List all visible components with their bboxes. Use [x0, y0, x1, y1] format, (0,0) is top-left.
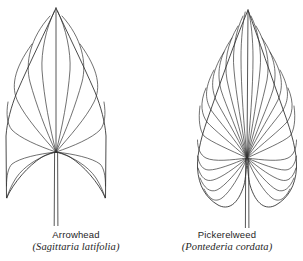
pickerelweed-vein-left-1: [241, 12, 247, 158]
arrowhead-vein-right-3: [56, 44, 98, 152]
pickerelweed-vein-right-5: [247, 52, 281, 158]
pickerelweed-vein-left-5: [213, 52, 247, 158]
arrowhead-vein-left-2: [28, 16, 56, 152]
pickerelweed-caption: Pickerelweed (Pontederia cordata): [151, 230, 303, 252]
pickerelweed-leaf-drawing: [197, 10, 296, 228]
leaf-comparison-figure: Arrowhead (Sagittaria latifolia) Pickere…: [0, 0, 303, 261]
arrowhead-vein-right-4: [56, 102, 105, 152]
arrowhead-common-name: Arrowhead: [0, 230, 152, 240]
pickerelweed-vein-right-4: [247, 38, 275, 158]
arrowhead-vein-left-1: [42, 11, 56, 152]
arrowhead-vein-right-2: [56, 16, 84, 152]
pickerelweed-lobe-vein-left-4: [200, 158, 247, 191]
arrowhead-scientific-name: (Sagittaria latifolia): [0, 241, 152, 252]
arrowhead-leaf-drawing: [6, 8, 106, 226]
arrowhead-lobe-vein-left-1: [7, 152, 56, 198]
pickerelweed-vein-left-4: [219, 38, 247, 158]
arrowhead-caption: Arrowhead (Sagittaria latifolia): [0, 230, 152, 252]
pickerelweed-lobe-vein-right-4: [247, 158, 294, 191]
leaf-illustration-plate: [0, 0, 303, 261]
arrowhead-vein-left-4: [7, 102, 56, 152]
pickerelweed-common-name: Pickerelweed: [151, 230, 303, 240]
pickerelweed-midrib: [247, 11, 248, 158]
arrowhead-lobe-vein-right-1: [56, 152, 105, 198]
arrowhead-vein-right-1: [56, 11, 70, 152]
pickerelweed-scientific-name: (Pontederia cordata): [151, 241, 303, 252]
arrowhead-vein-left-3: [14, 44, 56, 152]
